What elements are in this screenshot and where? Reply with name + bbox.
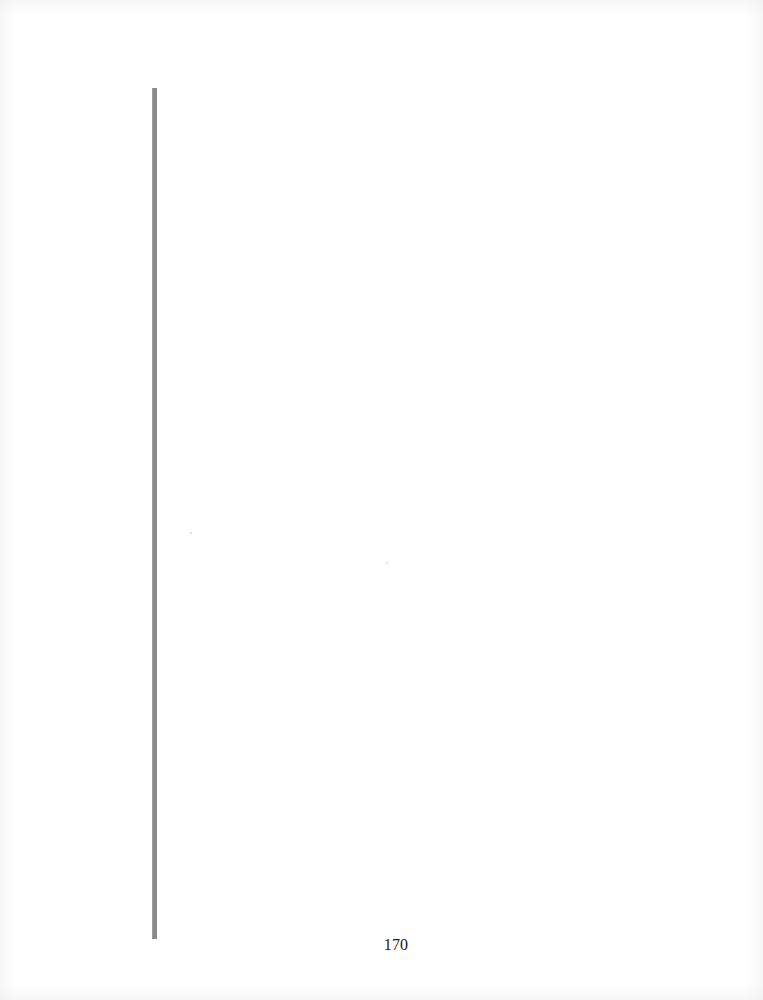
scan-speck bbox=[190, 532, 192, 534]
scan-speck bbox=[386, 562, 388, 564]
document-page: 170 bbox=[0, 0, 763, 1000]
vertical-margin-rule bbox=[152, 88, 157, 939]
page-number: 170 bbox=[366, 936, 426, 954]
